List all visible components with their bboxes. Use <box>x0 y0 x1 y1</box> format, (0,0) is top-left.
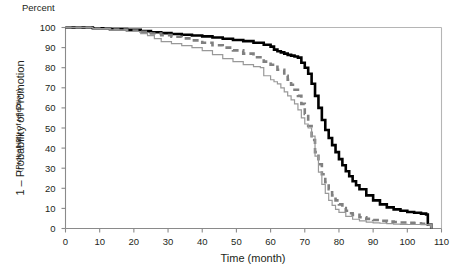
chart-container: Percent 1 – Probability of Promotion (Pr… <box>0 0 466 278</box>
series-upper-curve <box>66 28 432 229</box>
series-lower-curve <box>66 28 432 229</box>
plot-frame <box>66 28 442 229</box>
plot-area <box>0 0 466 278</box>
axis-ticks <box>62 28 442 233</box>
data-series-group <box>66 28 432 229</box>
series-middle-curve <box>66 28 432 229</box>
